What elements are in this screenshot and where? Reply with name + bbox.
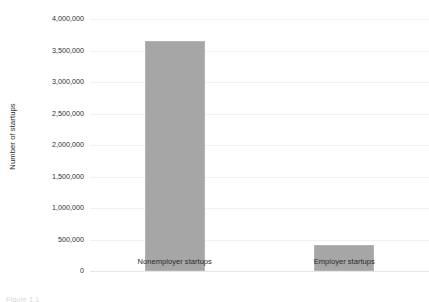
gridline — [90, 19, 429, 20]
y-axis-tick-label: 2,500,000 — [14, 110, 84, 117]
y-axis-tick-label: 1,000,000 — [14, 204, 84, 211]
plot-area: 0500,0001,000,0001,500,0002,000,0002,500… — [90, 19, 429, 271]
gridline — [90, 145, 429, 146]
y-axis-tick-label: 3,500,000 — [14, 47, 84, 54]
x-axis-category-label: Nonemployer startups — [90, 258, 260, 266]
gridline — [90, 51, 429, 52]
bar — [145, 41, 205, 271]
gridline — [90, 208, 429, 209]
y-axis-tick-label: 3,000,000 — [14, 78, 84, 85]
gridline — [90, 114, 429, 115]
y-axis-tick-label: 4,000,000 — [14, 15, 84, 22]
y-axis-tick-label: 500,000 — [14, 236, 84, 243]
y-axis-tick-label: 0 — [14, 267, 84, 274]
gridline — [90, 271, 429, 272]
y-axis-tick-label: 2,000,000 — [14, 141, 84, 148]
figure-caption: Figure 1.1 — [6, 296, 39, 302]
y-axis-title: Number of startups — [0, 0, 24, 272]
x-axis-category-label: Employer startups — [260, 258, 429, 266]
bar-chart-figure: Number of startups 0500,0001,000,0001,50… — [0, 0, 429, 302]
gridline — [90, 240, 429, 241]
gridline — [90, 177, 429, 178]
gridline — [90, 82, 429, 83]
y-axis-tick-label: 1,500,000 — [14, 173, 84, 180]
